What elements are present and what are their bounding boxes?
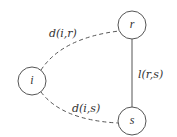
edge-label-l-r-s: l(r,s) [138,69,163,80]
edge-label-d-i-s: d(i,s) [72,103,100,114]
node-s-label: s [130,114,135,126]
node-r-label: r [130,18,135,30]
node-i-label: i [30,74,33,86]
edge-label-d-i-r: d(i,r) [49,28,77,39]
